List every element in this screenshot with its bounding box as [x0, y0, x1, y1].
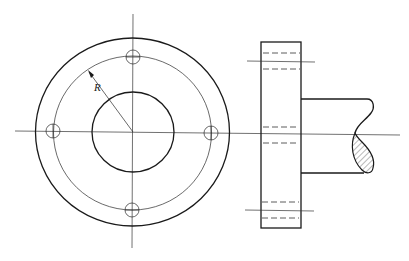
horizontal-centerline [15, 131, 400, 135]
radius-label: R [93, 81, 101, 93]
arrowhead-icon [88, 70, 94, 78]
technical-drawing: R [0, 0, 409, 261]
shaft-break-section [352, 133, 373, 173]
shaft [301, 99, 374, 173]
flange-side-profile [261, 42, 301, 228]
bolt-centerline-bottom [245, 210, 314, 211]
bolt-centerline-top [247, 61, 315, 62]
radius-dimension: R [88, 70, 133, 132]
side-view [245, 42, 374, 228]
front-view: R [15, 14, 400, 248]
